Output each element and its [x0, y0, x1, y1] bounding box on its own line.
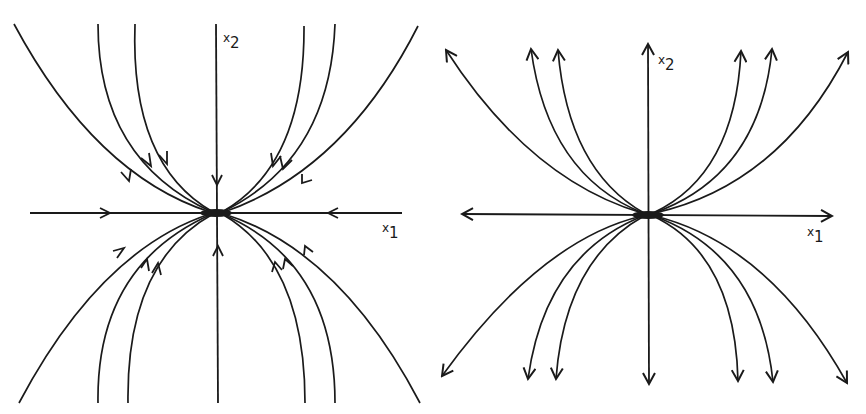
phase-portraits: x2 x1 x2 x1: [0, 0, 866, 414]
arrow-icon: [283, 259, 293, 269]
trajectory: [222, 214, 305, 403]
trajectory: [654, 216, 773, 382]
trajectory: [222, 24, 335, 212]
equilibrium-point: [632, 211, 664, 219]
trajectory: [98, 24, 212, 212]
trajectory: [224, 214, 420, 403]
trajectory: [224, 26, 418, 212]
trajectory: [528, 216, 643, 379]
trajectory: [655, 52, 848, 213]
x2-axis-label: x2: [223, 31, 240, 52]
x1-axis-label: x1: [807, 225, 824, 246]
arrow-icon: [304, 246, 313, 255]
trajectory: [222, 26, 304, 212]
left-phase-portrait: x2 x1: [14, 24, 420, 403]
trajectory: [653, 51, 741, 213]
arrow-icon: [113, 248, 124, 258]
trajectory: [653, 216, 738, 381]
arrow-icon: [141, 259, 149, 271]
x2-axis-label: x2: [658, 53, 675, 74]
trajectory: [128, 214, 213, 403]
x1-axis-label: x1: [382, 221, 399, 242]
arrow-icon: [302, 174, 312, 183]
right-phase-portrait: x2 x1: [442, 44, 848, 384]
trajectory: [531, 49, 643, 213]
equilibrium-point: [200, 209, 232, 217]
trajectory: [222, 214, 335, 403]
trajectory: [135, 24, 213, 212]
arrow-icon: [121, 169, 131, 181]
trajectory: [98, 214, 212, 403]
trajectory: [14, 24, 210, 212]
